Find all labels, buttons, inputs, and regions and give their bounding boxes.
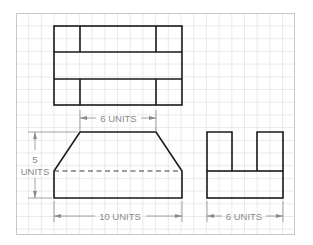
dimension-label: 10 UNITS	[99, 211, 141, 222]
dimension-label: UNITS	[21, 166, 50, 177]
orthographic-drawing: 6 UNITS 5 UNITS 10 UNITS 6 UNITS	[0, 0, 313, 245]
dimension-label: 6 UNITS	[100, 113, 136, 124]
dimension-label: 5	[32, 154, 37, 165]
dimension-label: 6 UNITS	[226, 211, 262, 222]
